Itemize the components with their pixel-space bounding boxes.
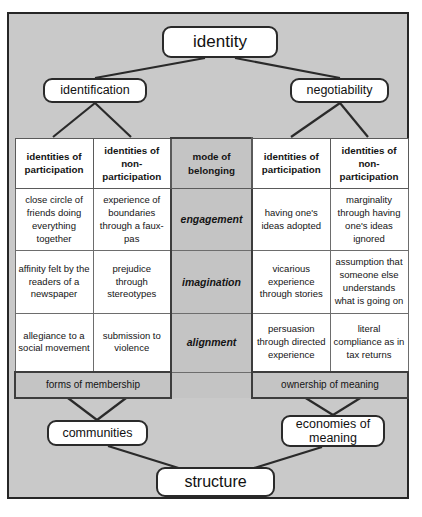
node-structure: structure <box>156 467 275 497</box>
matrix-band-row: forms of membership ownership of meaning <box>15 372 408 398</box>
identity-framework-diagram: identity identification negotiability id… <box>0 0 422 517</box>
matrix-header-cell-5: identities of non-participation <box>330 138 408 189</box>
band-forms-of-membership: forms of membership <box>15 372 171 398</box>
band-ownership-of-meaning: ownership of meaning <box>252 372 408 398</box>
node-identity: identity <box>162 26 278 58</box>
matrix-cell: affinity felt by the readers of a newspa… <box>15 251 93 313</box>
mode-label: alignment <box>187 336 237 348</box>
matrix-cell: submission to violence <box>93 313 171 372</box>
mode-label: engagement <box>181 213 243 225</box>
matrix-header-cell-1: identities of participation <box>15 138 93 189</box>
matrix-cell: assumption that someone else understands… <box>330 251 408 313</box>
matrix-cell: experience of boundaries through a faux-… <box>93 189 171 251</box>
matrix-cell: literal compliance as in tax returns <box>330 313 408 372</box>
node-communities-label: communities <box>62 426 132 440</box>
belonging-matrix: identities of participation identities o… <box>14 137 409 399</box>
matrix-header-cell-4: identities of participation <box>252 138 330 189</box>
matrix-header-cell-2: identities of non-participation <box>93 138 171 189</box>
matrix-cell: close circle of friends doing everything… <box>15 189 93 251</box>
matrix-cell: marginality through having one's ideas i… <box>330 189 408 251</box>
node-economies-of-meaning-label: economies of meaning <box>283 417 383 446</box>
band-spacer-middle <box>171 372 252 398</box>
node-negotiability: negotiability <box>290 78 389 103</box>
matrix-row-engagement: close circle of friends doing everything… <box>15 189 408 251</box>
matrix-cell: having one's ideas adopted <box>252 189 330 251</box>
node-economies-of-meaning: economies of meaning <box>281 415 385 447</box>
matrix-cell: prejudice through stereotypes <box>93 251 171 313</box>
node-negotiability-label: negotiability <box>306 83 372 97</box>
node-identification: identification <box>43 78 147 103</box>
matrix-cell: allegiance to a social movement <box>15 313 93 372</box>
matrix-cell: vicarious experience through stories <box>252 251 330 313</box>
matrix-row-imagination: affinity felt by the readers of a newspa… <box>15 251 408 313</box>
node-identification-label: identification <box>60 83 130 97</box>
matrix-row-alignment: allegiance to a social movement submissi… <box>15 313 408 372</box>
matrix-mode-cell: imagination <box>171 251 252 313</box>
node-identity-label: identity <box>193 32 247 52</box>
matrix-cell: persuasion through directed experience <box>252 313 330 372</box>
mode-label: imagination <box>182 276 241 288</box>
matrix-header-cell-mode: mode of belonging <box>171 138 252 189</box>
matrix-mode-cell: engagement <box>171 189 252 251</box>
node-structure-label: structure <box>184 473 246 491</box>
matrix-header-row: identities of participation identities o… <box>15 138 408 189</box>
matrix-mode-cell: alignment <box>171 313 252 372</box>
node-communities: communities <box>47 420 148 446</box>
